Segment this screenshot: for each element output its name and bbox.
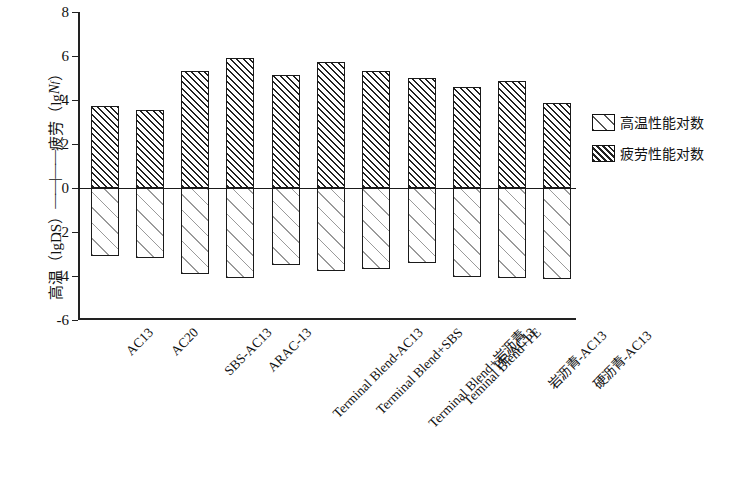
- bar-segment-high-temperature: [453, 188, 481, 277]
- bar-segment-fatigue: [408, 78, 436, 188]
- legend-label: 疲劳性能对数: [620, 143, 704, 163]
- bar: [408, 12, 436, 320]
- y-axis-line: [78, 12, 80, 320]
- y-axis-title-top-sub: f: [49, 81, 60, 84]
- bar-segment-fatigue: [362, 71, 390, 188]
- bar-segment-high-temperature: [317, 188, 345, 271]
- legend-label: 高温性能对数: [620, 112, 704, 132]
- bar-segment-high-temperature: [408, 188, 436, 263]
- y-axis-tick: [72, 144, 78, 145]
- bar-segment-fatigue: [136, 110, 164, 188]
- y-axis-title-divider: ——|——: [46, 151, 63, 209]
- legend-item: 高温性能对数: [592, 112, 732, 132]
- bar-segment-high-temperature: [272, 188, 300, 265]
- y-axis-tick: [72, 276, 78, 277]
- bar: [91, 12, 119, 320]
- x-axis-labels: AC13AC20SBS-AC13ARAC-13Terminal Blend-AC…: [78, 322, 576, 482]
- bar: [543, 12, 571, 320]
- chart-root: 高温（lgDS）——|——疲劳（lgNf） 86420-2-4-6 AC13AC…: [0, 0, 733, 492]
- y-axis-tick-label: 4: [62, 92, 70, 109]
- y-axis-title-top-italic: N: [46, 84, 63, 94]
- x-axis-label: AC20: [168, 325, 202, 359]
- y-axis-tick: [72, 56, 78, 57]
- x-axis-label: SBS-AC13: [221, 325, 275, 379]
- legend-swatch-high-temperature-icon: [592, 114, 615, 131]
- bar-segment-high-temperature: [362, 188, 390, 269]
- y-axis-tick: [72, 12, 78, 13]
- chart-legend: 高温性能对数 疲劳性能对数: [592, 112, 732, 174]
- bar: [362, 12, 390, 320]
- y-axis-tick-label: -4: [57, 268, 70, 285]
- bar: [317, 12, 345, 320]
- bar-segment-high-temperature: [181, 188, 209, 274]
- y-axis-tick-label: 0: [62, 180, 70, 197]
- bar: [453, 12, 481, 320]
- bar: [181, 12, 209, 320]
- bar-segment-fatigue: [317, 62, 345, 189]
- bar: [498, 12, 526, 320]
- plot-area: 86420-2-4-6: [78, 12, 576, 320]
- bar-segment-high-temperature: [226, 188, 254, 278]
- y-axis-title-top-close: ）: [44, 66, 65, 81]
- bar: [136, 12, 164, 320]
- bar-segment-fatigue: [498, 81, 526, 188]
- y-axis-tick: [72, 232, 78, 233]
- y-axis-tick: [72, 100, 78, 101]
- bar-segment-fatigue: [543, 103, 571, 188]
- y-axis-tick-label: 2: [62, 136, 70, 153]
- bar-segment-high-temperature: [91, 188, 119, 256]
- bar-segment-fatigue: [272, 75, 300, 188]
- x-axis-label: AC13: [122, 325, 156, 359]
- bar-segment-high-temperature: [136, 188, 164, 258]
- bar-segment-high-temperature: [498, 188, 526, 278]
- legend-swatch-fatigue-icon: [592, 145, 615, 162]
- y-axis-tick-label: 8: [62, 4, 70, 21]
- bar: [272, 12, 300, 320]
- y-axis-tick-label: 6: [62, 48, 70, 65]
- legend-item: 疲劳性能对数: [592, 143, 732, 163]
- bar: [226, 12, 254, 320]
- bar-segment-fatigue: [181, 71, 209, 188]
- bar-segment-fatigue: [91, 106, 119, 189]
- bar-segment-fatigue: [226, 58, 254, 188]
- y-axis-tick-label: -2: [57, 224, 70, 241]
- bar-segment-high-temperature: [543, 188, 571, 279]
- bar-segment-fatigue: [453, 87, 481, 188]
- y-axis-tick-label: -6: [57, 312, 70, 329]
